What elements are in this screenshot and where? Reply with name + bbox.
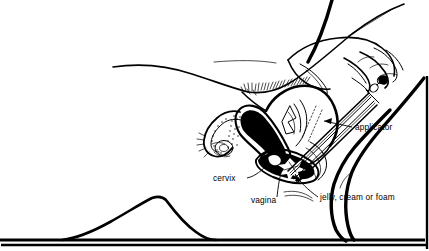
label-jelly-cream-or-foam: jelly, cream or foam <box>319 192 395 202</box>
figure-container: applicator cervix vagina jelly, cream or… <box>0 0 429 251</box>
label-applicator: applicator <box>355 122 393 132</box>
label-vagina: vagina <box>251 195 277 205</box>
illustration-canvas: applicator cervix vagina jelly, cream or… <box>0 0 429 251</box>
label-cervix: cervix <box>213 173 236 183</box>
